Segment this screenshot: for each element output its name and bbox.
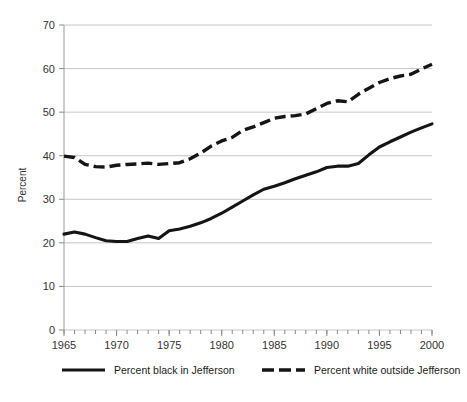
x-minor-ticks-group [64, 330, 432, 334]
y-tick-label-20: 20 [43, 237, 55, 249]
x-tick-label-1975: 1975 [157, 339, 181, 351]
line-chart: 010203040506070 196519701975198019851990… [0, 0, 467, 402]
y-tick-label-70: 70 [43, 19, 55, 31]
chart-container: 010203040506070 196519701975198019851990… [0, 0, 467, 402]
legend-label-0: Percent black in Jefferson [114, 364, 235, 376]
series-line-percent-white-outside-jefferson [64, 64, 432, 167]
y-axis-title: Percent [17, 168, 28, 203]
x-tick-label-1980: 1980 [209, 339, 233, 351]
legend: Percent black in Jefferson Percent white… [62, 364, 460, 376]
y-tick-label-50: 50 [43, 106, 55, 118]
x-tick-label-1990: 1990 [315, 339, 339, 351]
y-tick-labels-group: 010203040506070 [43, 19, 55, 336]
x-tick-labels-group: 19651970197519801985199019952000 [52, 339, 444, 351]
x-tick-label-2000: 2000 [420, 339, 444, 351]
x-tick-label-1970: 1970 [104, 339, 128, 351]
y-tick-label-0: 0 [49, 324, 55, 336]
x-major-ticks-group [64, 330, 432, 336]
x-tick-label-1995: 1995 [367, 339, 391, 351]
x-tick-label-1965: 1965 [52, 339, 76, 351]
y-tick-label-60: 60 [43, 63, 55, 75]
series-line-percent-black-in-jefferson [64, 124, 432, 242]
series-group [64, 64, 432, 241]
gridlines-group [59, 25, 432, 330]
x-tick-label-1985: 1985 [262, 339, 286, 351]
y-tick-label-30: 30 [43, 193, 55, 205]
y-tick-label-40: 40 [43, 150, 55, 162]
legend-label-1: Percent white outside Jefferson [314, 364, 460, 376]
y-tick-label-10: 10 [43, 280, 55, 292]
